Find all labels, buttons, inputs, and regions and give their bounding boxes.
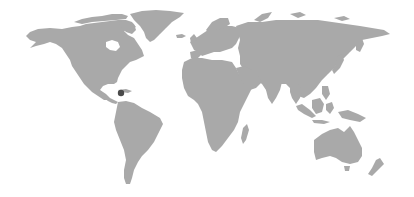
world-map-svg <box>0 0 414 197</box>
landmass-madagascar <box>241 124 249 144</box>
landmass-tasmania <box>344 166 350 171</box>
landmass-india <box>266 78 282 104</box>
landmass-severnaya <box>290 12 306 18</box>
continents <box>26 10 390 184</box>
location-marker[interactable] <box>118 90 124 96</box>
landmass-novaya-zemlya <box>254 12 272 22</box>
landmass-australia <box>314 126 362 164</box>
landmass-java <box>312 120 330 124</box>
landmass-philippines <box>322 86 330 100</box>
landmass-kamchatka <box>356 38 364 52</box>
landmass-new-siberian <box>334 16 350 21</box>
landmass-sulawesi <box>326 102 334 114</box>
landmass-new-guinea <box>338 110 366 122</box>
landmass-south-america <box>114 101 163 184</box>
landmass-borneo <box>312 98 324 114</box>
landmass-iceland <box>176 34 186 38</box>
landmass-asia <box>236 20 390 98</box>
world-map <box>0 0 414 197</box>
landmass-new-zealand <box>368 158 384 176</box>
landmass-greenland <box>130 10 184 42</box>
